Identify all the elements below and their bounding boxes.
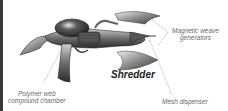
label-line: Magnetic weave (172, 27, 219, 34)
weapon-title: Shredder (111, 69, 155, 80)
label-mesh-dispenser: Mesh dispenser (162, 98, 208, 105)
diagram-canvas: Magnetic weave generators Shredder Polym… (0, 0, 228, 111)
label-polymer-web-compound-chamber: Polymer web compound chamber (8, 90, 65, 104)
label-line: generators (172, 34, 219, 41)
label-magnetic-weave-generators: Magnetic weave generators (172, 27, 219, 41)
label-line: Mesh dispenser (162, 98, 208, 105)
label-line: Polymer web (8, 90, 65, 97)
label-line: compound chamber (8, 97, 65, 104)
